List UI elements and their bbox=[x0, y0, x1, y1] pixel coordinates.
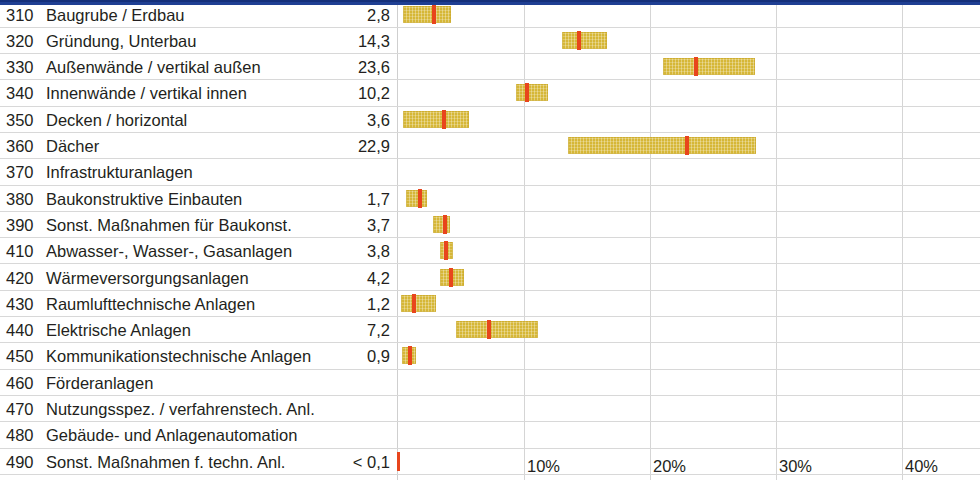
row-label: Außenwände / vertikal außen bbox=[46, 57, 261, 77]
row-code: 360 bbox=[6, 136, 38, 156]
cost-group-table: 310Baugrube / Erdbau2,8320Gründung, Unte… bbox=[0, 5, 980, 480]
table-row: 420Wärmeversorgungsanlagen4,2 bbox=[0, 265, 980, 291]
axis-tick-label: 20% bbox=[653, 455, 686, 477]
row-value: 1,2 bbox=[250, 294, 390, 314]
row-code: 340 bbox=[6, 83, 38, 103]
row-label: Elektrische Anlagen bbox=[46, 320, 191, 340]
table-row: 310Baugrube / Erdbau2,8 bbox=[0, 2, 980, 28]
table-row: 480Gebäude- und Anlagenautomation bbox=[0, 422, 980, 448]
row-value: < 0,1 bbox=[250, 452, 390, 472]
row-label: Gründung, Unterbau bbox=[46, 31, 196, 51]
row-code: 380 bbox=[6, 189, 38, 209]
row-code: 350 bbox=[6, 110, 38, 130]
row-value: 1,7 bbox=[250, 189, 390, 209]
table-row: 430Raumlufttechnische Anlagen1,2 bbox=[0, 291, 980, 317]
table-row: 330Außenwände / vertikal außen23,6 bbox=[0, 54, 980, 80]
row-code: 370 bbox=[6, 162, 38, 182]
row-code: 460 bbox=[6, 373, 38, 393]
row-code: 450 bbox=[6, 346, 38, 366]
row-value: 22,9 bbox=[250, 136, 390, 156]
row-label: Decken / horizontal bbox=[46, 110, 187, 130]
row-value: 10,2 bbox=[250, 83, 390, 103]
row-label: Innenwände / vertikal innen bbox=[46, 83, 247, 103]
row-code: 320 bbox=[6, 31, 38, 51]
row-code: 410 bbox=[6, 241, 38, 261]
table-row: 380Baukonstruktive Einbauten1,7 bbox=[0, 186, 980, 212]
table-row: 350Decken / horizontal3,6 bbox=[0, 107, 980, 133]
row-label: Nutzungsspez. / verfahrenstech. Anl. bbox=[46, 399, 315, 419]
row-value: 3,7 bbox=[250, 215, 390, 235]
x-axis: 10%20%30%40% bbox=[397, 455, 980, 480]
row-label: Gebäude- und Anlagenautomation bbox=[46, 425, 297, 445]
table-row: 460Förderanlagen bbox=[0, 370, 980, 396]
row-label: Baukonstruktive Einbauten bbox=[46, 189, 242, 209]
table-row: 360Dächer22,9 bbox=[0, 133, 980, 159]
row-label: Wärmeversorgungsanlagen bbox=[46, 268, 249, 288]
axis-tick-label: 30% bbox=[779, 455, 812, 477]
row-code: 390 bbox=[6, 215, 38, 235]
table-row: 440Elektrische Anlagen7,2 bbox=[0, 317, 980, 343]
row-label: Raumlufttechnische Anlagen bbox=[46, 294, 255, 314]
table-row: 470Nutzungsspez. / verfahrenstech. Anl. bbox=[0, 396, 980, 422]
row-code: 440 bbox=[6, 320, 38, 340]
row-value: 14,3 bbox=[250, 31, 390, 51]
table-row: 340Innenwände / vertikal innen10,2 bbox=[0, 80, 980, 106]
row-label: Infrastrukturanlagen bbox=[46, 162, 193, 182]
chart-table-screenshot: 310Baugrube / Erdbau2,8320Gründung, Unte… bbox=[0, 0, 980, 480]
row-value: 4,2 bbox=[250, 268, 390, 288]
row-value: 0,9 bbox=[250, 346, 390, 366]
row-code: 470 bbox=[6, 399, 38, 419]
axis-tick-label: 40% bbox=[905, 455, 938, 477]
row-code: 310 bbox=[6, 5, 38, 25]
row-value: 2,8 bbox=[250, 5, 390, 25]
row-value: 7,2 bbox=[250, 320, 390, 340]
row-label: Baugrube / Erdbau bbox=[46, 5, 185, 25]
row-label: Dächer bbox=[46, 136, 99, 156]
table-row: 390Sonst. Maßnahmen für Baukonst.3,7 bbox=[0, 212, 980, 238]
axis-tick-label: 10% bbox=[527, 455, 560, 477]
row-code: 330 bbox=[6, 57, 38, 77]
row-code: 430 bbox=[6, 294, 38, 314]
table-row: 370Infrastrukturanlagen bbox=[0, 159, 980, 185]
row-code: 420 bbox=[6, 268, 38, 288]
row-code: 490 bbox=[6, 452, 38, 472]
row-value: 3,8 bbox=[250, 241, 390, 261]
table-row: 450Kommunikationstechnische Anlagen0,9 bbox=[0, 343, 980, 369]
row-value: 3,6 bbox=[250, 110, 390, 130]
row-label: Förderanlagen bbox=[46, 373, 153, 393]
row-value: 23,6 bbox=[250, 57, 390, 77]
table-row: 410Abwasser-, Wasser-, Gasanlagen3,8 bbox=[0, 238, 980, 264]
table-row: 320Gründung, Unterbau14,3 bbox=[0, 28, 980, 54]
row-code: 480 bbox=[6, 425, 38, 445]
